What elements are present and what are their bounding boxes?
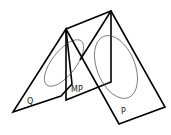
plane-p-outline (66, 11, 165, 124)
plane-p-label: P (121, 107, 126, 116)
plane-p: P (66, 11, 165, 124)
three-planes-diagram: Q MP P (0, 0, 171, 135)
plane-q-ellipse (37, 34, 90, 93)
plane-q: Q (13, 29, 91, 112)
plane-q-outline (13, 29, 72, 112)
plane-mp-label: MP (71, 85, 83, 94)
plane-p-ellipse (86, 29, 146, 104)
plane-q-label: Q (27, 97, 33, 106)
plane-mp: MP (66, 11, 111, 100)
